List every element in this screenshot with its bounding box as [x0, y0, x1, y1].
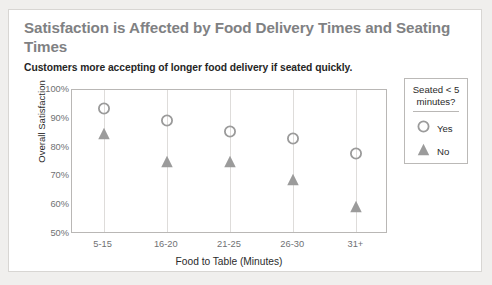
legend-item-label: Yes: [437, 123, 453, 134]
gridline: [293, 90, 294, 232]
y-axis-tick: 90%: [35, 113, 69, 123]
circle-outline-icon: [97, 101, 110, 119]
y-axis-tick: 80%: [35, 142, 69, 152]
legend-title: Seated < 5 minutes?: [405, 84, 467, 108]
circle-outline-icon: [350, 146, 363, 164]
y-axis-tick: 60%: [35, 199, 69, 209]
chart-card: Satisfaction is Affected by Food Deliver…: [8, 9, 482, 272]
scatter-chart: Overall Satisfaction 50%60%70%80%90%100%…: [9, 10, 483, 273]
y-axis-tick: 70%: [35, 170, 69, 180]
x-axis-tick: 26-30: [280, 239, 304, 249]
legend-item-no[interactable]: No: [417, 142, 449, 160]
plot-area: [71, 89, 387, 233]
x-axis-title: Food to Table (Minutes): [71, 256, 387, 267]
triangle-filled-icon: [287, 172, 300, 190]
circle-outline-icon: [160, 113, 173, 131]
x-axis-tick: 21-25: [217, 239, 241, 249]
y-axis-tick: 100%: [35, 84, 69, 94]
triangle-filled-icon: [350, 199, 363, 217]
triangle-filled-icon: [97, 126, 110, 144]
y-axis-tick: 50%: [35, 228, 69, 238]
legend-title-line-2: minutes?: [405, 96, 467, 108]
legend-item-yes[interactable]: Yes: [417, 119, 453, 137]
x-axis-tick: 16-20: [154, 239, 178, 249]
circle-outline-icon: [224, 124, 237, 142]
triangle-filled-icon: [160, 154, 173, 172]
legend-item-label: No: [437, 146, 449, 157]
circle-outline-icon: [287, 131, 300, 149]
x-axis-tick: 5-15: [93, 239, 112, 249]
chart-legend: Seated < 5 minutes? YesNo: [404, 78, 468, 164]
x-axis-tick: 31+: [348, 239, 364, 249]
legend-divider: [413, 111, 459, 112]
triangle-filled-icon: [417, 142, 430, 160]
legend-title-line-1: Seated < 5: [405, 84, 467, 96]
triangle-filled-icon: [224, 154, 237, 172]
circle-outline-icon: [417, 119, 430, 137]
y-axis-tick-labels: 50%60%70%80%90%100%: [23, 10, 69, 273]
